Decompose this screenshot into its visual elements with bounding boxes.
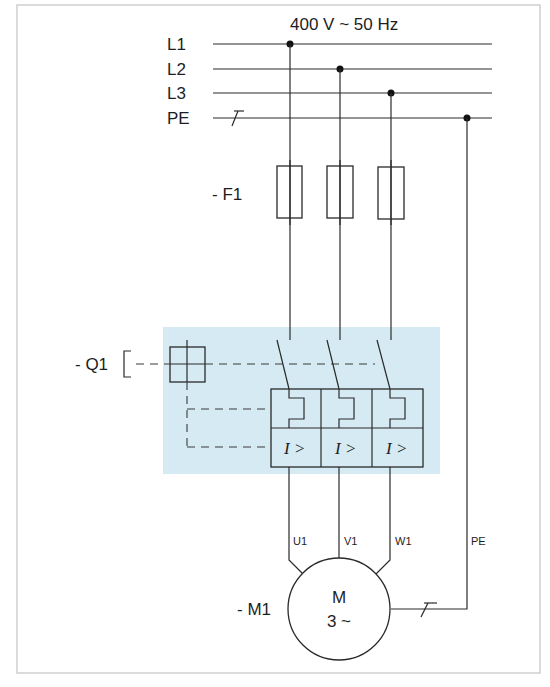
bus-label-pe: PE <box>167 109 190 128</box>
bus-label-l1: L1 <box>167 35 186 54</box>
terminal-u1: U1 <box>293 535 307 547</box>
supply-label: 400 V ~ 50 Hz <box>290 15 398 34</box>
motor-letter: M <box>332 588 346 607</box>
junction-dots <box>287 41 471 122</box>
terminal-pe: PE <box>471 535 486 547</box>
breaker-designation: - Q1 <box>75 355 108 374</box>
circuit-diagram: 400 V ~ 50 Hz L1 L2 L3 PE - F1 <box>0 0 550 687</box>
overcurrent-label-3: I > <box>385 439 407 458</box>
bus-lines <box>213 44 492 118</box>
fuse-symbols <box>277 160 404 225</box>
overcurrent-label-2: I > <box>334 439 356 458</box>
terminal-v1: V1 <box>344 535 357 547</box>
bus-label-l2: L2 <box>167 60 186 79</box>
overcurrent-label-1: I > <box>283 439 305 458</box>
bus-label-l3: L3 <box>167 84 186 103</box>
motor-pe-marker-icon <box>421 603 437 617</box>
motor-symbol <box>288 558 390 660</box>
fuse-designation: - F1 <box>212 185 242 204</box>
terminal-w1: W1 <box>395 535 412 547</box>
motor-phase-type: 3 ~ <box>327 612 351 631</box>
breaker-bracket <box>124 351 131 377</box>
motor-designation: - M1 <box>237 600 271 619</box>
